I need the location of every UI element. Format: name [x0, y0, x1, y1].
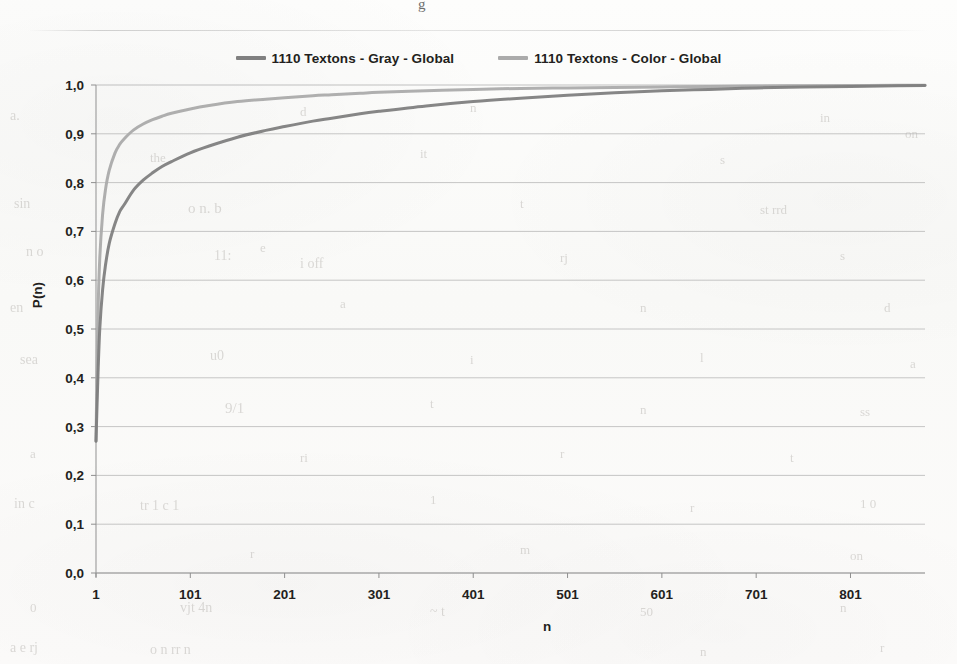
y-tick-label: 0,2 — [65, 468, 84, 483]
y-tick-label: 0,7 — [65, 224, 84, 239]
axis-lines — [91, 85, 925, 578]
y-tick-label: 0,4 — [65, 371, 84, 386]
gridlines — [96, 85, 925, 573]
x-tick-label: 601 — [651, 587, 674, 602]
data-series-lines — [96, 85, 925, 441]
series-line — [96, 85, 925, 441]
y-tick-label: 0,8 — [65, 176, 84, 191]
plot-area: 0,00,10,20,30,40,50,60,70,80,91,0 110120… — [0, 0, 957, 664]
x-tick-label: 501 — [556, 587, 579, 602]
x-tick-label: 701 — [745, 587, 768, 602]
y-tick-label: 0,3 — [65, 420, 84, 435]
x-tick-label: 301 — [368, 587, 391, 602]
x-axis-title: n — [543, 619, 551, 634]
y-tick-label: 0,5 — [65, 322, 84, 337]
series-line — [96, 85, 925, 441]
y-tick-label: 0,6 — [65, 273, 84, 288]
x-tick-label: 201 — [273, 587, 296, 602]
y-axis-tick-labels: 0,00,10,20,30,40,50,60,70,80,91,0 — [65, 78, 84, 581]
line-chart: 0,00,10,20,30,40,50,60,70,80,91,0 110120… — [0, 0, 957, 664]
y-tick-label: 1,0 — [65, 78, 84, 93]
y-tick-label: 0,0 — [65, 566, 84, 581]
x-tick-label: 101 — [179, 587, 202, 602]
x-tick-label: 801 — [839, 587, 862, 602]
x-tick-label: 401 — [462, 587, 485, 602]
x-tick-label: 1 — [92, 587, 100, 602]
x-axis-tick-labels: 1101201301401501601701801 — [92, 587, 862, 602]
y-axis-title: P(n) — [30, 282, 45, 308]
y-tick-label: 0,9 — [65, 127, 84, 142]
y-tick-label: 0,1 — [65, 517, 84, 532]
